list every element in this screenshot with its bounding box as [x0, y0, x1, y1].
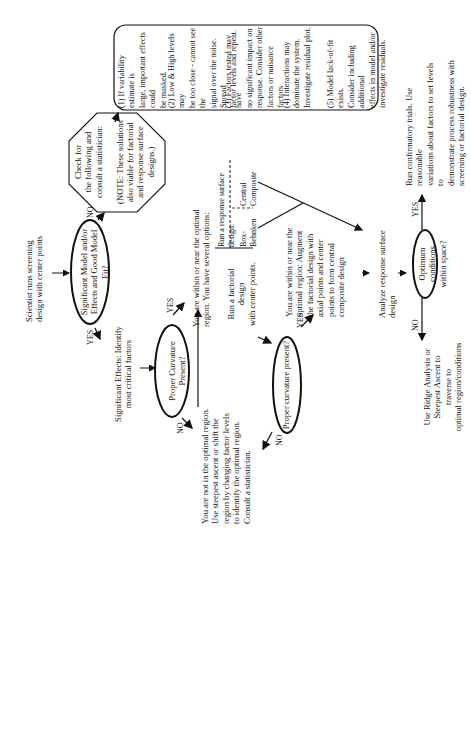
curvature1-decision: Proper Curvature Present? [167, 326, 188, 416]
model-fit-decision: Significant Model and/or Effects and Goo… [79, 222, 110, 322]
flowchart-canvas: Scientist runs screening design with cen… [0, 0, 471, 741]
confirmatory-trials-node: Run confirmatory trials. Use reasonable … [404, 56, 466, 186]
check-statistician-node: Check for the following and consult a st… [73, 116, 156, 208]
no-label-curvature1: NO [176, 422, 185, 434]
no-label-curvature2: NO [275, 434, 284, 446]
checklist-item-5: (5) Model lack-of-fit exists. Consider i… [326, 26, 388, 108]
yes-label-curvature1: YES [166, 298, 175, 313]
within-optimal-options-node: You are within or near the optimal regio… [191, 197, 212, 327]
augment-design-node: You are within or near the optimal regio… [284, 227, 346, 317]
rsd-option-box-behnken: Box-Behnken [239, 207, 260, 247]
yes-label-model: YES [86, 330, 95, 345]
significant-effects-node: Significant Effects: Identify most criti… [113, 326, 134, 422]
optimum-decision: Optimum conditions within space? [417, 231, 448, 297]
not-optimal-node: You are not in the optimal region. Use s… [200, 404, 252, 524]
connectors-layer [0, 0, 471, 741]
checklist-item-3: (3) Factors tested may have no significa… [224, 26, 286, 108]
checklist-item-1: (1) If variability estimate is large, im… [117, 26, 169, 108]
rsd-header: Run a response surface design: [217, 159, 238, 247]
factorial-center-points-node: Run a factorial design with center point… [226, 258, 257, 330]
no-label-optimum: NO [411, 319, 420, 331]
checklist-item-4: (4) Interactions may dominate the system… [282, 26, 313, 108]
analyze-rsd-node: Analyze response surface design [377, 218, 398, 318]
curvature2-decision: Proper curvature present? [281, 338, 291, 432]
yes-label-optimum: YES [411, 202, 420, 217]
start-node: Scientist runs screening design with cen… [24, 232, 45, 322]
ridge-analysis-node: Use Ridge Analysis or Steepest Ascent to… [422, 342, 464, 432]
rsd-option-central-composite: Central Composite [239, 158, 260, 206]
no-label-model: NO [86, 206, 95, 218]
